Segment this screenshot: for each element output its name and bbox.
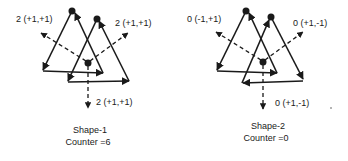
label-up-right: 0 (+1,-1) bbox=[293, 18, 327, 28]
dashed-arrow-up-right bbox=[265, 32, 303, 60]
stray-dot bbox=[330, 107, 332, 109]
counter-label: Counter =0 bbox=[244, 133, 289, 143]
shape-1: 2 (+1,+1) 2 (+1,+1) 2 (+1,+1) Shape-1 Co… bbox=[16, 8, 152, 148]
label-up-left: 2 (+1,+1) bbox=[16, 14, 53, 24]
shape-2: 0 (-1,+1) 0 (+1,-1) 0 (+1,-1) Shape-2 Co… bbox=[187, 8, 327, 144]
edge-b-bottom bbox=[243, 81, 303, 83]
vertex-dot-icon bbox=[243, 8, 250, 15]
vertex-dot-icon bbox=[268, 14, 275, 21]
edge-b-left bbox=[242, 20, 269, 83]
shape-caption: Shape-2 bbox=[251, 121, 285, 131]
diagram-canvas: 2 (+1,+1) 2 (+1,+1) 2 (+1,+1) Shape-1 Co… bbox=[0, 0, 348, 161]
vertex-dot-icon bbox=[69, 8, 76, 15]
vertex-dot-icon bbox=[94, 16, 101, 23]
label-up-left: 0 (-1,+1) bbox=[187, 14, 221, 24]
label-down: 2 (+1,+1) bbox=[96, 97, 133, 107]
dashed-arrow-up-left bbox=[216, 32, 261, 60]
shape-caption: Shape-1 bbox=[73, 125, 107, 135]
dashed-arrow-up-left bbox=[41, 33, 86, 61]
label-down: 0 (+1,-1) bbox=[275, 98, 309, 108]
edge-b-bottom bbox=[68, 81, 129, 82]
label-up-right: 2 (+1,+1) bbox=[115, 18, 152, 28]
dashed-arrow-up-right bbox=[90, 33, 128, 61]
edge-a-left bbox=[217, 11, 246, 70]
counter-label: Counter =6 bbox=[66, 137, 111, 147]
